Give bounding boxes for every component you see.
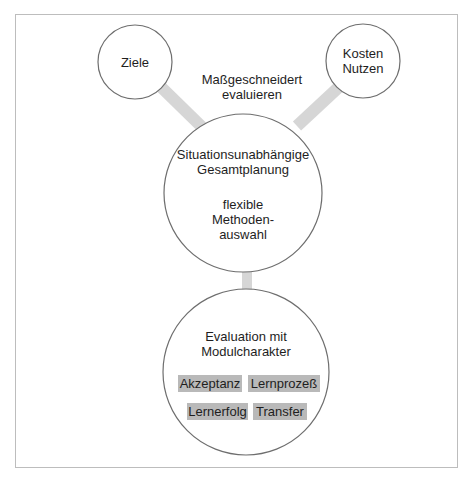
center-title-line-2: Gesamtplanung xyxy=(163,162,323,177)
center-sub-line-2: Methoden- xyxy=(193,212,293,227)
node-bottom-title: Evaluation mit Modulcharakter xyxy=(186,329,306,359)
ziele-text: Ziele xyxy=(121,55,149,70)
tag-lernprozess: Lernprozeß xyxy=(248,375,320,392)
center-sub-line-3: auswahl xyxy=(193,227,293,242)
bottom-title-line-2: Modulcharakter xyxy=(186,344,306,359)
node-ziele-label: Ziele xyxy=(105,55,165,70)
node-center-subtitle: flexible Methoden- auswahl xyxy=(193,197,293,242)
tag-transfer: Transfer xyxy=(253,403,307,420)
node-center-circle xyxy=(164,114,322,272)
tag-akzeptanz: Akzeptanz xyxy=(178,375,242,392)
node-center-title: Situationsunabhängige Gesamtplanung xyxy=(163,147,323,177)
center-title-line-1: Situationsunabhängige xyxy=(163,147,323,162)
nutzen-text: Nutzen xyxy=(333,61,393,76)
annotation-label: Maßgeschneidert evaluieren xyxy=(192,72,312,102)
node-kosten-nutzen-label: Kosten Nutzen xyxy=(333,46,393,76)
annotation-line-2: evaluieren xyxy=(192,87,312,102)
tag-lernerfolg: Lernerfolg xyxy=(187,403,248,420)
center-sub-line-1: flexible xyxy=(193,197,293,212)
kosten-text: Kosten xyxy=(333,46,393,61)
node-bottom-circle xyxy=(163,289,329,455)
annotation-line-1: Maßgeschneidert xyxy=(192,72,312,87)
bottom-title-line-1: Evaluation mit xyxy=(186,329,306,344)
